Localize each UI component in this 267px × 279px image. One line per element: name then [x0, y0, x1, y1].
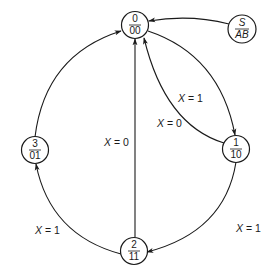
- node-s3: 3 01: [22, 137, 49, 164]
- node-state-number: 0: [132, 13, 138, 24]
- legend-output-symbol: AB: [234, 29, 249, 40]
- node-state-code: 11: [129, 251, 140, 262]
- node-s0: 0 00: [122, 12, 149, 39]
- node-state-code: 00: [129, 25, 141, 36]
- edge-s3-to-s0: [35, 31, 121, 137]
- node-state-code: 10: [230, 149, 242, 160]
- edge-labels: X = 1 X = 0 X = 1 X = 0 X = 1: [34, 92, 261, 236]
- edge-legend-to-s0: [149, 18, 229, 24]
- node-legend: S AB: [228, 15, 256, 43]
- edge-s1-to-s0: [144, 38, 224, 143]
- legend-state-symbol: S: [239, 17, 246, 28]
- edge-s1-to-s2: [147, 162, 236, 252]
- edge-label-s0-s1: X = 1: [177, 92, 203, 104]
- edge-label-s2-s3: X = 1: [34, 224, 60, 236]
- node-state-number: 1: [233, 137, 239, 148]
- edges: [35, 18, 236, 254]
- node-state-number: 2: [131, 239, 137, 250]
- node-s1: 1 10: [223, 136, 250, 163]
- edge-label-s1-s0: X = 0: [156, 117, 182, 129]
- edge-label-s1-s2: X = 1: [235, 222, 261, 234]
- node-s2: 2 11: [121, 238, 148, 265]
- node-state-code: 01: [29, 150, 41, 161]
- edge-s2-to-s3: [36, 164, 121, 254]
- state-diagram: X = 1 X = 0 X = 1 X = 0 X = 1 0 00 1 10 …: [0, 0, 267, 279]
- node-state-number: 3: [32, 138, 38, 149]
- edge-label-s2-s0: X = 0: [103, 136, 129, 148]
